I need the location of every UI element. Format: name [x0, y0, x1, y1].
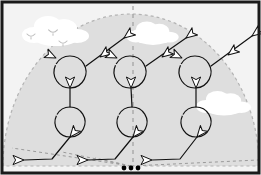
- center-marker-dot-0: [122, 166, 127, 171]
- center-marker-dot-1: [129, 166, 134, 171]
- aerobatic-box-diagram: [0, 0, 261, 175]
- center-marker-dot-2: [136, 166, 141, 171]
- diagram-canvas: [0, 0, 261, 175]
